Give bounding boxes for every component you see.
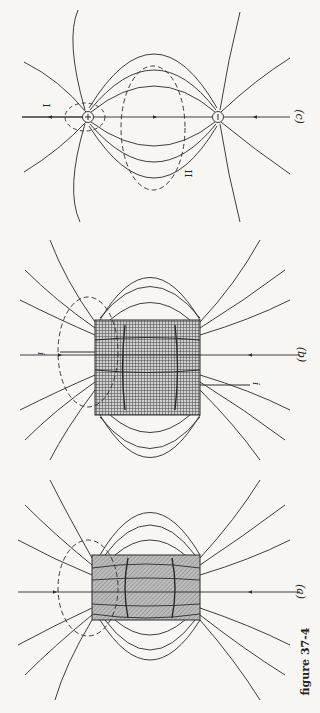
- panel-label-c: (c): [293, 109, 306, 124]
- current-label-left: i: [36, 352, 47, 355]
- panel-a-bar-magnet: [18, 480, 300, 700]
- panel-label-b: (b): [295, 347, 308, 363]
- surface-label-I: I: [41, 104, 52, 108]
- surface-label-II: II: [183, 170, 194, 178]
- solenoid-coil: [95, 320, 200, 415]
- figure-caption: figure 37-4: [299, 628, 312, 696]
- current-label-right: i: [251, 382, 262, 385]
- panel-label-a: (a): [294, 584, 307, 599]
- panel-b-solenoid: [20, 240, 300, 460]
- panel-c-dipole: [22, 10, 290, 222]
- bar-magnet: [92, 555, 200, 620]
- gaussian-surface-II: [121, 66, 185, 190]
